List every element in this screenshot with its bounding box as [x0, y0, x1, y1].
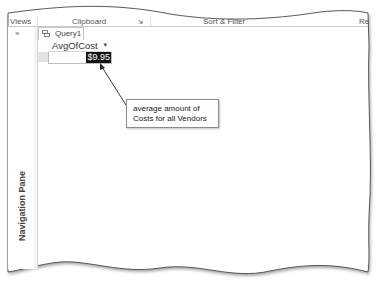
callout-box: average amount of Costs for all Vendors: [126, 99, 219, 128]
callout-line-2: Costs for all Vendors: [133, 114, 218, 124]
callout-line-1: average amount of: [133, 104, 218, 114]
callout-arrow: [0, 0, 379, 285]
